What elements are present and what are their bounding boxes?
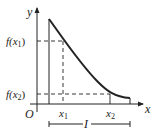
- function-curve: [49, 19, 130, 98]
- x2-label: x2: [105, 107, 115, 121]
- fx2-label: f(x2): [6, 88, 26, 102]
- function-diagram: y x O f(x1) f(x2) x1 x2 I: [0, 0, 153, 138]
- x-axis-label: x: [144, 102, 151, 116]
- y-axis-label: y: [26, 5, 33, 19]
- x1-label: x1: [58, 107, 68, 121]
- origin-label: O: [25, 107, 34, 121]
- fx1-label: f(x1): [6, 35, 26, 49]
- diagram-canvas: y x O f(x1) f(x2) x1 x2 I: [0, 0, 153, 138]
